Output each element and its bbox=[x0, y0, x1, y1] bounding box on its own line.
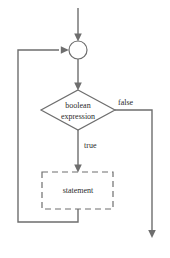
merge-to-condition-arrowhead-icon bbox=[74, 83, 82, 91]
loopback-path bbox=[18, 50, 78, 222]
true-edge-label: true bbox=[84, 141, 97, 150]
merge-node-circle bbox=[69, 41, 87, 59]
edge-loopback-arrowhead bbox=[61, 46, 69, 54]
false-branch-arrowhead-icon bbox=[148, 230, 156, 238]
flowchart-canvas: boolean expression true statement false bbox=[0, 0, 170, 258]
entry-arrowhead-icon bbox=[74, 34, 82, 42]
while-loop-flowchart: boolean expression true statement false bbox=[0, 0, 170, 258]
condition-label-line2: expression bbox=[61, 112, 95, 121]
loopback-arrowhead-icon bbox=[61, 46, 69, 54]
edge-condition-true-to-body bbox=[74, 130, 82, 173]
condition-label-line1: boolean bbox=[65, 101, 90, 110]
edge-entry-to-merge bbox=[74, 8, 82, 42]
false-edge-label: false bbox=[118, 98, 134, 107]
condition-node-diamond bbox=[41, 90, 115, 130]
edge-merge-to-condition bbox=[74, 59, 82, 91]
true-branch-arrowhead-icon bbox=[74, 165, 82, 173]
false-branch-path bbox=[115, 110, 152, 231]
body-label: statement bbox=[63, 186, 94, 195]
